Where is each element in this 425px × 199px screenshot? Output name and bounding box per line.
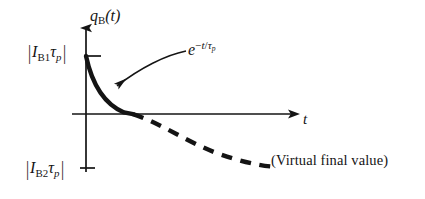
time-symbol: t bbox=[303, 111, 307, 127]
abs-bar-left-lower: | bbox=[26, 158, 30, 178]
figure-root: |IB1τp| |IB2τp| qB(t) t e−t/τp (Virtual … bbox=[0, 0, 425, 199]
y-axis-label: qB(t) bbox=[90, 8, 120, 26]
y-tick-label-lower: |IB2τp| bbox=[25, 158, 65, 179]
charge-argument: (t) bbox=[105, 7, 120, 24]
abs-bar-right-lower: | bbox=[60, 158, 64, 178]
tau-subscript-upper: p bbox=[56, 51, 62, 63]
current-subscript-lower: B2 bbox=[35, 167, 48, 179]
exp-tau-subscript: p bbox=[212, 44, 216, 53]
current-subscript-upper: B1 bbox=[37, 51, 50, 63]
abs-bar-right: | bbox=[62, 42, 66, 62]
tau-subscript-lower: p bbox=[54, 167, 60, 179]
y-tick-label-upper: |IB1τp| bbox=[27, 42, 67, 63]
virtual-final-value-caption: (Virtual final value) bbox=[271, 153, 388, 168]
exponential-annotation-label: e−t/τp bbox=[188, 40, 216, 58]
stored-charge-decay-solid bbox=[86, 56, 133, 114]
charge-symbol: q bbox=[90, 7, 98, 24]
abs-bar-left: | bbox=[28, 42, 32, 62]
exponential-leader-arrow bbox=[117, 51, 186, 86]
stored-charge-decay-dashed bbox=[133, 114, 276, 167]
x-axis-label: t bbox=[303, 112, 307, 127]
